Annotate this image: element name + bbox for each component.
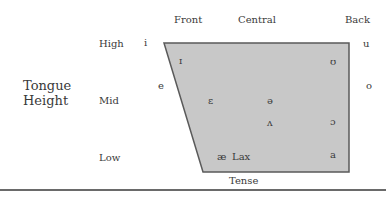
vowel-ae: æ — [217, 152, 226, 162]
lax-vowel-region — [0, 0, 386, 197]
vowel-a: a — [330, 150, 336, 160]
region-label-tense: Tense — [229, 176, 258, 186]
vowel-e: e — [158, 81, 164, 91]
vowel-wedge: ʌ — [267, 118, 273, 128]
vowel-u: u — [363, 39, 369, 49]
vowel-open-o: ɔ — [330, 117, 336, 127]
vowel-schwa: ə — [267, 96, 273, 106]
vowel-open-e: ɛ — [208, 96, 213, 106]
region-label-lax: Lax — [232, 152, 250, 162]
vowel-small-capital-i: ɪ — [179, 56, 182, 66]
vowel-upsilon: ʊ — [330, 57, 336, 67]
bottom-divider — [0, 189, 386, 191]
vowel-o: o — [366, 81, 372, 91]
vowel-i: i — [144, 38, 147, 48]
